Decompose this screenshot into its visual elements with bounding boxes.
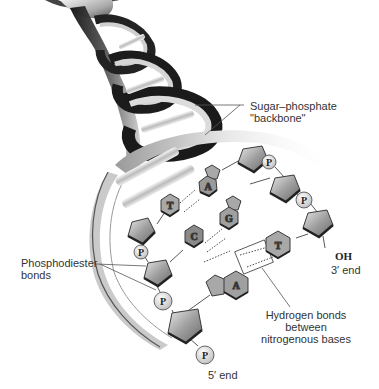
label-hydrogen-line3: nitrogenous bases — [256, 333, 356, 345]
label-backbone-line2: "backbone" — [250, 112, 337, 124]
svg-text:A: A — [204, 181, 212, 192]
svg-text:G: G — [225, 213, 233, 224]
label-oh: OH — [335, 250, 352, 262]
phosphate-left-1: P — [134, 245, 148, 259]
sugar-left-3 — [168, 309, 202, 343]
base-G: G — [220, 196, 241, 229]
label-5prime-end: 5′ end — [208, 369, 238, 381]
sugar-right-2 — [270, 175, 300, 202]
phosphate-left-2: P — [154, 292, 172, 310]
svg-text:P: P — [266, 157, 272, 168]
label-backbone-line1: Sugar–phosphate — [250, 100, 337, 112]
svg-text:T: T — [167, 200, 174, 211]
label-backbone: Sugar–phosphate "backbone" — [250, 100, 337, 124]
svg-text:C: C — [190, 231, 197, 242]
svg-text:A: A — [232, 280, 240, 291]
phosphate-5prime: P — [196, 346, 214, 364]
sugar-left-2 — [144, 260, 172, 286]
phosphate-right-2: P — [296, 192, 312, 208]
label-3prime-end: 3′ end — [331, 264, 361, 276]
label-phosphodiester: Phosphodiester bonds — [21, 257, 97, 281]
label-phosphodiester-line1: Phosphodiester — [21, 257, 97, 269]
base-C: C — [185, 225, 203, 247]
svg-text:P: P — [301, 195, 307, 206]
bases: A T G C T A — [161, 165, 290, 299]
base-A-bottom: A — [206, 271, 248, 299]
svg-text:P: P — [138, 247, 144, 258]
sugar-right-3 — [303, 210, 333, 237]
label-hydrogen-line2: between — [256, 321, 356, 333]
base-T-top: T — [161, 194, 179, 216]
label-hydrogen-line1: Hydrogen bonds — [256, 309, 356, 321]
svg-text:P: P — [202, 350, 208, 361]
base-T-bottom: T — [266, 231, 290, 258]
phosphate-right-1: P — [262, 155, 276, 169]
label-phosphodiester-line2: bonds — [21, 269, 97, 281]
svg-text:P: P — [160, 296, 166, 307]
sugar-left-1 — [128, 218, 155, 244]
label-hydrogen-bonds: Hydrogen bonds between nitrogenous bases — [256, 309, 356, 345]
base-A-top: A — [199, 165, 220, 196]
svg-text:T: T — [275, 240, 282, 251]
